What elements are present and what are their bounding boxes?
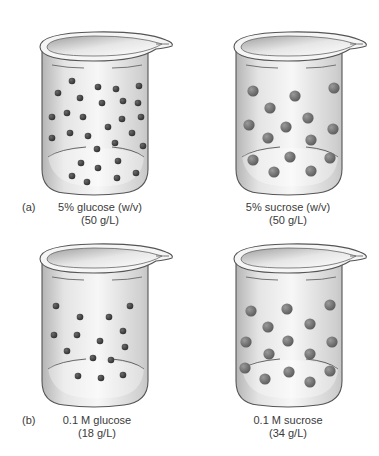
caption-a-sucrose-line2: (50 g/L) [233,214,343,226]
beaker-a-glucose [40,32,172,195]
caption-b-sucrose-line1: 0.1 M sucrose [233,414,343,426]
caption-b-glucose-line2: (18 g/L) [42,427,152,439]
beaker-b-glucose [40,244,172,407]
panel-a-letter: (a) [22,201,35,213]
caption-a-sucrose-line1: 5% sucrose (w/v) [233,201,343,213]
beaker-a-sucrose [234,32,366,195]
panel-b-letter: (b) [22,414,35,426]
beaker-b-sucrose [234,244,366,407]
caption-a-glucose-line2: (50 g/L) [45,214,155,226]
caption-b-glucose-line1: 0.1 M glucose [42,414,152,426]
beakers-illustration [0,0,379,456]
caption-a-glucose-line1: 5% glucose (w/v) [45,201,155,213]
figure-canvas: (a) 5% glucose (w/v) (50 g/L) 5% sucrose… [0,0,379,456]
caption-b-sucrose-line2: (34 g/L) [233,427,343,439]
